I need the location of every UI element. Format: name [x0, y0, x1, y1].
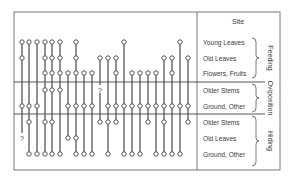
site-marker — [58, 56, 62, 60]
row-label: Ground, Other — [203, 151, 246, 158]
site-marker — [170, 56, 174, 60]
site-marker — [20, 104, 24, 108]
site-marker — [27, 40, 31, 44]
site-marker — [43, 120, 47, 124]
species-column — [146, 71, 150, 124]
site-marker — [50, 40, 54, 44]
site-marker — [50, 88, 54, 92]
species-column — [35, 40, 39, 156]
site-marker — [43, 88, 47, 92]
site-header: Site — [232, 18, 244, 25]
group-label-hiding: Hiding — [266, 131, 274, 151]
site-marker — [178, 152, 182, 156]
group-brace — [252, 38, 259, 78]
site-marker — [154, 152, 158, 156]
site-marker — [50, 152, 54, 156]
species-column — [106, 56, 110, 156]
site-marker — [122, 152, 126, 156]
site-marker — [82, 104, 86, 108]
site-marker — [74, 136, 78, 140]
site-marker — [138, 152, 142, 156]
row-labels: Site Young LeavesOld LeavesFlowers, Frui… — [203, 18, 247, 158]
site-marker — [130, 71, 134, 75]
site-marker — [170, 104, 174, 108]
site-marker — [43, 152, 47, 156]
row-label: Flowers, Fruits — [203, 70, 247, 77]
site-marker — [162, 104, 166, 108]
site-marker — [106, 104, 110, 108]
row-label: Old Leaves — [203, 135, 237, 142]
site-marker — [90, 71, 94, 75]
unknown-marker: ? — [98, 87, 102, 94]
row-label: Young Leaves — [203, 39, 245, 47]
site-marker — [58, 152, 62, 156]
row-label: Old Leaves — [203, 55, 237, 62]
site-marker — [106, 120, 110, 124]
site-marker — [122, 40, 126, 44]
site-marker — [43, 56, 47, 60]
site-marker — [50, 120, 54, 124]
site-marker — [58, 88, 62, 92]
site-marker — [90, 152, 94, 156]
site-marker — [130, 152, 134, 156]
group-brace — [252, 116, 259, 166]
site-marker — [114, 104, 118, 108]
site-marker — [66, 104, 70, 108]
site-marker — [74, 40, 78, 44]
site-marker — [122, 104, 126, 108]
site-marker — [186, 56, 190, 60]
site-marker — [35, 40, 39, 44]
site-marker — [43, 71, 47, 75]
site-marker — [98, 56, 102, 60]
site-marker — [114, 120, 118, 124]
site-marker — [186, 104, 190, 108]
site-marker — [74, 104, 78, 108]
species-column — [50, 40, 54, 156]
site-marker — [82, 152, 86, 156]
species-column — [122, 40, 126, 156]
site-marker — [154, 71, 158, 75]
site-marker — [50, 56, 54, 60]
site-marker — [50, 71, 54, 75]
site-usage-diagram: ?? Site Young LeavesOld LeavesFlowers, F… — [0, 0, 293, 177]
site-marker — [146, 120, 150, 124]
site-marker — [162, 56, 166, 60]
site-marker — [27, 152, 31, 156]
site-marker — [106, 56, 110, 60]
site-marker — [178, 40, 182, 44]
site-marker — [114, 56, 118, 60]
site-marker — [170, 152, 174, 156]
row-label: Older Stems — [203, 87, 240, 94]
group-braces: FeedingOvipositionHiding — [252, 38, 274, 166]
site-marker — [178, 104, 182, 108]
site-marker — [27, 120, 31, 124]
species-column — [66, 71, 70, 140]
species-column — [162, 56, 166, 156]
species-columns: ?? — [19, 40, 190, 156]
species-column — [27, 40, 31, 156]
site-marker — [58, 71, 62, 75]
site-marker — [146, 104, 150, 108]
site-marker — [74, 56, 78, 60]
site-marker — [66, 136, 70, 140]
species-column — [178, 40, 182, 156]
species-column — [43, 40, 47, 156]
site-marker — [27, 104, 31, 108]
site-marker — [20, 40, 24, 44]
site-marker — [35, 104, 39, 108]
site-marker — [35, 152, 39, 156]
site-marker — [82, 71, 86, 75]
site-marker — [106, 152, 110, 156]
site-marker — [20, 56, 24, 60]
site-marker — [114, 71, 118, 75]
row-label: Ground, Other — [203, 103, 246, 110]
group-label-feeding: Feeding — [266, 45, 274, 70]
group-brace — [252, 84, 259, 112]
row-label: Older Stems — [203, 119, 240, 126]
species-column — [170, 56, 174, 156]
site-marker — [154, 104, 158, 108]
site-marker — [170, 71, 174, 75]
site-marker — [90, 104, 94, 108]
site-marker — [130, 104, 134, 108]
unknown-marker: ? — [20, 135, 24, 142]
